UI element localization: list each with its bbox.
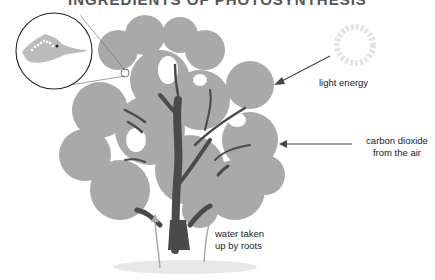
- sun-icon: [337, 27, 373, 63]
- ground-shadow: [113, 260, 257, 274]
- carbon-dioxide-arrow: [279, 140, 352, 148]
- tree-foliage: [59, 15, 285, 228]
- carbon-dioxide-label: carbon dioxide from the air: [357, 135, 435, 158]
- light-energy-label: light energy: [319, 77, 368, 89]
- water-label: water taken up by roots: [215, 228, 264, 251]
- water-line2: up by roots: [215, 240, 264, 252]
- carbon-dioxide-line2: from the air: [357, 147, 435, 159]
- water-line1: water taken: [215, 228, 264, 240]
- carbon-dioxide-line1: carbon dioxide: [357, 135, 435, 147]
